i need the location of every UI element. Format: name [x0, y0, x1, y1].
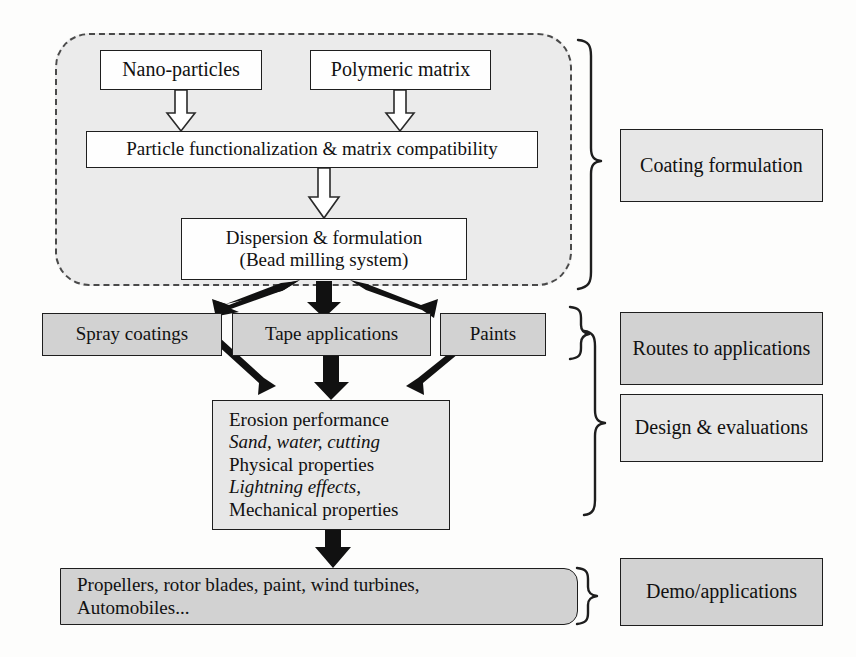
label-routes-to-applications-text: Routes to applications [621, 337, 822, 361]
brace-routes-to-applications [570, 307, 589, 359]
node-particle-functionalization-label: Particle functionalization & matrix comp… [87, 138, 537, 160]
node-paints-label: Paints [441, 323, 545, 345]
node-erosion-performance[interactable]: Erosion performance Sand, water, cutting… [212, 400, 450, 530]
label-demo-applications-text: Demo/applications [621, 580, 822, 604]
node-paints[interactable]: Paints [440, 313, 546, 356]
label-design-evaluations-text: Design & evaluations [621, 416, 822, 440]
label-design-evaluations[interactable]: Design & evaluations [620, 394, 823, 462]
label-coating-formulation-text: Coating formulation [621, 154, 822, 178]
label-routes-to-applications[interactable]: Routes to applications [620, 312, 823, 385]
node-nano-particles[interactable]: Nano-particles [100, 50, 262, 90]
solid-arrow-erosion-to-demo [315, 530, 351, 568]
label-coating-formulation[interactable]: Coating formulation [620, 129, 823, 202]
demo-line-1: Propellers, rotor blades, paint, wind tu… [77, 574, 567, 596]
erosion-line-4: Lightning effects, [229, 476, 439, 498]
node-tape-applications[interactable]: Tape applications [232, 313, 431, 356]
solid-arrow-tape-to-erosion [314, 356, 349, 400]
demo-line-2: Automobiles... [77, 597, 567, 619]
node-tape-applications-label: Tape applications [233, 323, 430, 345]
node-demo-applications[interactable]: Propellers, rotor blades, paint, wind tu… [60, 568, 578, 625]
node-dispersion-formulation[interactable]: Dispersion & formulation (Bead milling s… [181, 218, 467, 280]
node-polymeric-matrix-label: Polymeric matrix [311, 58, 490, 82]
label-demo-applications[interactable]: Demo/applications [620, 558, 823, 626]
node-spray-coatings-label: Spray coatings [43, 323, 221, 345]
brace-demo-applications [577, 568, 597, 624]
brace-design-evaluations [584, 331, 605, 515]
erosion-line-3: Physical properties [229, 454, 439, 476]
node-dispersion-line-1: Dispersion & formulation [192, 227, 456, 249]
flowchart-canvas: Nano-particles Polymeric matrix Particle… [0, 0, 856, 657]
brace-coating-formulation [578, 40, 601, 289]
erosion-line-1: Erosion performance [229, 409, 439, 431]
node-particle-functionalization[interactable]: Particle functionalization & matrix comp… [86, 131, 538, 168]
node-polymeric-matrix[interactable]: Polymeric matrix [310, 50, 491, 90]
node-dispersion-line-2: (Bead milling system) [192, 249, 456, 271]
node-nano-particles-label: Nano-particles [101, 58, 261, 82]
erosion-line-2: Sand, water, cutting [229, 431, 439, 453]
erosion-line-5: Mechanical properties [229, 499, 439, 521]
node-spray-coatings[interactable]: Spray coatings [42, 313, 222, 356]
